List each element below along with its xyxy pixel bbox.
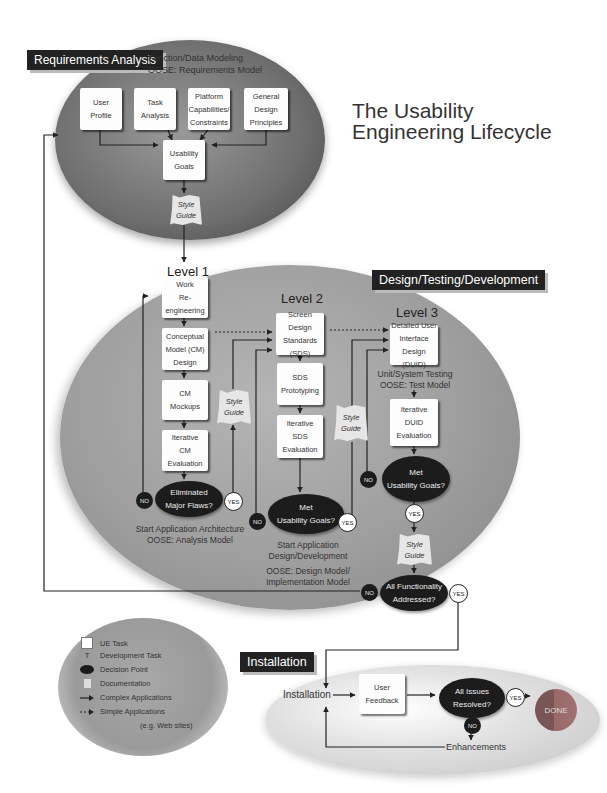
installation-yes: YES	[506, 688, 525, 707]
level-1-note: Start Application Architecture OOSE: Ana…	[130, 524, 250, 546]
ue-task-icon	[80, 637, 94, 649]
task-screen-design-standards: Screen Design Standards (SDS)	[276, 313, 324, 355]
level-1-yes: YES	[224, 492, 243, 511]
level-1-no: NO	[136, 492, 153, 509]
task-iterative-duid-evaluation: Iterative DUID Evaluation	[390, 399, 438, 446]
task-sds-prototyping: SDS Prototyping	[277, 363, 323, 405]
task-iterative-sds-evaluation: Iterative SDS Evaluation	[277, 415, 323, 458]
level-2-label: Level 2	[281, 291, 323, 306]
task-platform-capabilities: Platform Capabilities/ Constraints	[188, 88, 230, 130]
decision-eliminated-major-flaws: Eliminated Major Flaws?	[155, 481, 223, 517]
installation-start: Installation	[283, 689, 331, 700]
legend-documentation: Documentation	[80, 679, 150, 688]
style-guide-level-3: Style Guide	[397, 534, 432, 565]
level-2-note: Start Application Design/Development	[263, 540, 353, 562]
decision-met-usability-goals-level-2: Met Usability Goals?	[268, 494, 344, 534]
task-user-profile: User Profile	[80, 88, 122, 130]
decision-all-issues-resolved: All Issues Resolved?	[439, 678, 505, 718]
dotted-arrow-icon	[80, 709, 94, 715]
legend-simple-applications-example: (e.g. Web sites)	[140, 721, 192, 730]
level-3-note: Unit/System Testing OOSE: Test Model	[372, 369, 458, 391]
requirements-note: Function/Data Modeling OOSE: Requirement…	[148, 52, 262, 76]
task-work-reengineering: Work Re- engineering	[162, 277, 208, 318]
legend-complex-applications: Complex Applications	[80, 693, 172, 702]
level-2-yes: YES	[338, 513, 357, 532]
style-guide-level-2: Style Guide	[334, 405, 368, 441]
legend-development-task: T Development Task	[80, 651, 162, 660]
enhancements-label: Enhancements	[446, 742, 506, 753]
legend-decision-point: Decision Point	[80, 665, 148, 674]
decision-met-usability-goals-level-3: Met Usability Goals?	[382, 456, 450, 502]
task-task-analysis: Task Analysis	[134, 88, 176, 130]
task-cm-mockups: CM Mockups	[162, 380, 208, 420]
installation-banner: Installation	[240, 652, 314, 672]
level-3-no: NO	[360, 471, 377, 488]
style-guide-level-1: Style Guide	[217, 390, 251, 424]
level-2-note-oose: OOSE: Design Model/ Implementation Model	[263, 566, 353, 588]
requirements-analysis-banner: Requirements Analysis	[27, 50, 163, 70]
solid-arrow-icon	[80, 695, 94, 701]
design-testing-development-banner: Design/Testing/Development	[372, 270, 545, 290]
decision-point-icon	[80, 665, 94, 674]
final-yes: YES	[449, 584, 468, 603]
development-task-icon: T	[80, 651, 94, 660]
level-3-label: Level 3	[396, 305, 438, 320]
level-2-no: NO	[249, 513, 266, 530]
documentation-icon	[80, 679, 94, 688]
task-user-feedback: User Feedback	[359, 674, 405, 714]
task-general-design-principles: General Design Principles	[244, 88, 288, 130]
style-guide-requirements: Style Guide	[170, 195, 202, 225]
legend-ue-task: UE Task	[80, 637, 128, 649]
task-detailed-user-interface-design: Detailed User Interface Design (DUID)	[390, 325, 438, 365]
done-endpoint: DONE	[535, 689, 577, 731]
task-conceptual-model-design: Conceptual Model (CM) Design	[162, 328, 208, 370]
installation-no: NO	[464, 717, 481, 734]
legend-simple-applications: Simple Applications	[80, 707, 165, 716]
diagram-title: The Usability Engineering Lifecycle	[352, 100, 552, 142]
task-iterative-cm-evaluation: Iterative CM Evaluation	[162, 430, 208, 471]
final-no: NO	[361, 584, 378, 601]
task-usability-goals: Usability Goals	[163, 140, 205, 180]
level-3-yes: YES	[405, 504, 424, 523]
decision-all-functionality-addressed: All Functionality Addressed?	[380, 575, 448, 611]
